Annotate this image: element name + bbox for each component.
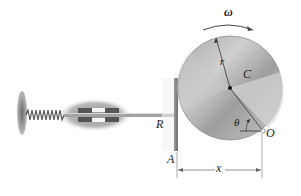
label-o: O [266,127,275,139]
label-x: x [216,162,221,174]
wall-support [17,91,27,135]
cam-diagram [0,0,301,196]
pivot-o [261,129,265,133]
bushing-left [78,108,92,113]
label-theta: θ [234,117,239,128]
bushing-right [105,108,119,113]
label-c: C [243,68,251,80]
label-omega: ω [224,6,233,18]
omega-arrow [203,25,253,30]
label-r-follower: R [156,118,163,130]
label-a: A [167,153,174,165]
label-r: r [220,56,224,67]
